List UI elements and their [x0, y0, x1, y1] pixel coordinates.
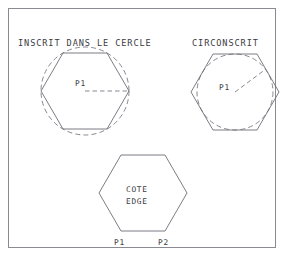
edge-label-edge: EDGE: [126, 197, 148, 206]
technical-drawing-page: INSCRIT DANS LE CERCLE P1 CIRCONSCRIT P1…: [0, 0, 286, 258]
inscribed-title: INSCRIT DANS LE CERCLE: [18, 38, 152, 48]
edge-label-cote: COTE: [126, 185, 148, 194]
figure-edge: COTE EDGE P1 P2: [99, 155, 187, 247]
circumscribed-radius-label: P1: [219, 83, 230, 92]
hexagon-construction-diagram: INSCRIT DANS LE CERCLE P1 CIRCONSCRIT P1…: [0, 0, 286, 258]
edge-point-left-label: P1: [114, 238, 125, 247]
figure-inscribed: INSCRIT DANS LE CERCLE P1: [18, 38, 152, 136]
inscribed-radius-label: P1: [75, 79, 86, 88]
circumscribed-title: CIRCONSCRIT: [192, 38, 259, 48]
edge-point-right-label: P2: [158, 238, 169, 247]
circumscribed-radius-line: [235, 69, 266, 92]
figure-circumscribed: CIRCONSCRIT P1: [191, 38, 279, 131]
